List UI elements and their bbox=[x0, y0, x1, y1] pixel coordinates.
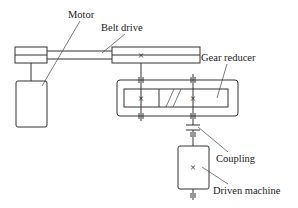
pulley-cross-icon: × bbox=[138, 50, 144, 61]
motor-label: Motor bbox=[68, 9, 95, 20]
belt-drive-label: Belt drive bbox=[101, 22, 143, 33]
belt-drive-leader-line bbox=[102, 34, 125, 53]
coupling-leader-line bbox=[198, 127, 228, 152]
coupling bbox=[186, 125, 200, 146]
motor-leader-line bbox=[42, 21, 80, 86]
driven-machine-label: Driven machine bbox=[213, 185, 281, 196]
motor-pulley bbox=[15, 47, 47, 63]
motor-body bbox=[16, 81, 47, 127]
input-gear-cross-icon: × bbox=[138, 93, 144, 104]
gear-reducer-leader-line bbox=[217, 64, 227, 98]
helical-tooth-mark-1 bbox=[166, 89, 174, 107]
large-pulley bbox=[112, 47, 200, 63]
belt bbox=[47, 51, 112, 59]
transmission-diagram: × Motor Belt drive × × Gear reducer bbox=[0, 0, 298, 208]
driven-machine-leader-line bbox=[202, 167, 228, 184]
driven-machine-cross-icon: × bbox=[190, 162, 196, 173]
helical-tooth-mark-2 bbox=[173, 89, 181, 107]
gear-reducer-label: Gear reducer bbox=[201, 52, 256, 63]
coupling-label: Coupling bbox=[216, 153, 256, 164]
